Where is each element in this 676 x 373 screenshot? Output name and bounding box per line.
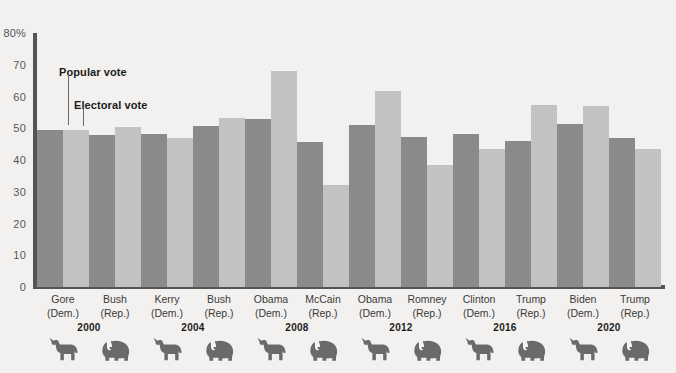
bar-mccain-2008-popular[interactable] xyxy=(297,142,323,287)
y-tick-label-20: 20 xyxy=(13,218,26,230)
year-label-2000: 2000 xyxy=(59,322,119,333)
bar-romney-2012-popular[interactable] xyxy=(401,137,427,287)
elephant-icon xyxy=(306,336,340,368)
bar-pair-trump-2020 xyxy=(609,33,661,287)
legend-electoral-vote: Electoral vote xyxy=(74,95,148,113)
year-and-party-icon-row: 200020042008201220162020 xyxy=(37,322,665,373)
elephant-icon xyxy=(514,336,548,368)
y-tick-label-30: 30 xyxy=(13,186,26,198)
elephant-icon xyxy=(202,336,236,368)
bar-kerry-2004-popular[interactable] xyxy=(141,134,167,287)
y-axis-tick-labels: 01020304050607080% xyxy=(0,0,33,373)
y-tick-label-40: 40 xyxy=(13,154,26,166)
bar-pair-biden-2020 xyxy=(557,33,609,287)
year-label-2016: 2016 xyxy=(475,322,535,333)
bar-gore-2000-electoral[interactable] xyxy=(63,130,89,287)
bar-groups xyxy=(37,33,665,287)
year-label-2008: 2008 xyxy=(267,322,327,333)
election-vote-share-chart: 01020304050607080% Popular vote Electora… xyxy=(0,0,676,373)
bar-pair-mccain-2008 xyxy=(297,33,349,287)
donkey-icon xyxy=(150,336,184,368)
bar-trump-2016-electoral[interactable] xyxy=(531,105,557,287)
bar-trump-2020-popular[interactable] xyxy=(609,138,635,287)
bar-bush-2004-popular[interactable] xyxy=(193,126,219,287)
clipped-header-text xyxy=(0,0,676,12)
bar-obama-2008-popular[interactable] xyxy=(245,119,271,287)
bar-pair-trump-2016 xyxy=(505,33,557,287)
donkey-icon xyxy=(254,336,288,368)
y-tick-label-70: 70 xyxy=(13,59,26,71)
bar-mccain-2008-electoral[interactable] xyxy=(323,185,349,287)
legend-popular-vote-label: Popular vote xyxy=(59,66,127,78)
donkey-icon xyxy=(462,336,496,368)
donkey-icon xyxy=(358,336,392,368)
elephant-icon xyxy=(98,336,132,368)
y-tick-label-60: 60 xyxy=(13,91,26,103)
bar-pair-clinton-2016 xyxy=(453,33,505,287)
legend-popular-vote: Popular vote xyxy=(59,62,127,80)
bar-pair-obama-2012 xyxy=(349,33,401,287)
y-tick-label-80: 80% xyxy=(3,27,26,39)
bar-pair-kerry-2004 xyxy=(141,33,193,287)
donkey-icon xyxy=(566,336,600,368)
y-tick-label-10: 10 xyxy=(13,249,26,261)
bar-pair-bush-2004 xyxy=(193,33,245,287)
bar-biden-2020-popular[interactable] xyxy=(557,124,583,287)
bar-bush-2004-electoral[interactable] xyxy=(219,118,245,287)
year-label-2012: 2012 xyxy=(371,322,431,333)
elephant-icon xyxy=(618,336,652,368)
x-axis-candidate-labels: Gore(Dem.)Bush(Rep.)Kerry(Dem.)Bush(Rep.… xyxy=(37,292,665,322)
elephant-icon xyxy=(410,336,444,368)
candidate-party: (Rep.) xyxy=(604,306,666,320)
year-label-2004: 2004 xyxy=(163,322,223,333)
legend-electoral-leader-line xyxy=(83,109,84,126)
bar-gore-2000-popular[interactable] xyxy=(37,130,63,287)
legend-popular-leader-line xyxy=(68,76,69,125)
x-label-trump-2020: Trump(Rep.) xyxy=(604,292,666,320)
bar-romney-2012-electoral[interactable] xyxy=(427,165,453,287)
bar-bush-2000-popular[interactable] xyxy=(89,135,115,287)
bar-pair-obama-2008 xyxy=(245,33,297,287)
year-label-2020: 2020 xyxy=(579,322,639,333)
bar-obama-2008-electoral[interactable] xyxy=(271,71,297,287)
bar-bush-2000-electoral[interactable] xyxy=(115,127,141,287)
candidate-name: Trump xyxy=(604,292,666,306)
bar-clinton-2016-electoral[interactable] xyxy=(479,149,505,287)
bar-trump-2016-popular[interactable] xyxy=(505,141,531,287)
bar-obama-2012-popular[interactable] xyxy=(349,125,375,287)
bar-clinton-2016-popular[interactable] xyxy=(453,134,479,287)
bar-pair-romney-2012 xyxy=(401,33,453,287)
bar-kerry-2004-electoral[interactable] xyxy=(167,138,193,287)
y-tick-label-0: 0 xyxy=(20,281,26,293)
donkey-icon xyxy=(46,336,80,368)
legend-electoral-vote-label: Electoral vote xyxy=(74,99,148,111)
y-tick-label-50: 50 xyxy=(13,122,26,134)
bar-trump-2020-electoral[interactable] xyxy=(635,149,661,287)
bar-obama-2012-electoral[interactable] xyxy=(375,91,401,287)
bar-biden-2020-electoral[interactable] xyxy=(583,106,609,287)
